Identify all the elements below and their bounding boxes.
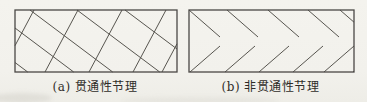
rock-block-outline <box>189 10 354 72</box>
joint-diagram-persistent <box>14 9 178 73</box>
joint-line <box>225 46 255 72</box>
rock-block-outline <box>15 10 177 72</box>
caption-nonpersistent-joints: (b) 非贯通性节理 <box>222 80 320 94</box>
joint-line <box>30 10 113 72</box>
joint-line <box>324 46 354 72</box>
scan-smudge <box>0 93 52 102</box>
joint-pattern-svg-a <box>14 9 178 73</box>
joint-diagram-nonpersistent <box>188 9 355 73</box>
scan-smudge <box>120 97 280 102</box>
joint-line <box>190 46 220 72</box>
joint-line <box>89 10 122 72</box>
caption-persistent-joints: (a) 贯通性节理 <box>53 80 138 94</box>
joint-line <box>293 46 323 72</box>
joint-line <box>162 44 177 72</box>
joint-line <box>125 10 177 49</box>
joint-line <box>15 63 28 73</box>
scanned-figure-page: (a) 贯通性节理 (b) 非贯通性节理 <box>0 0 367 102</box>
joint-line <box>308 10 339 37</box>
joint-line <box>268 10 299 37</box>
joint-line <box>340 10 354 22</box>
joint-line <box>227 10 258 37</box>
joint-line <box>189 10 220 37</box>
joint-pattern-svg-b <box>188 9 355 73</box>
joint-line <box>77 10 160 72</box>
joint-line <box>259 46 289 72</box>
